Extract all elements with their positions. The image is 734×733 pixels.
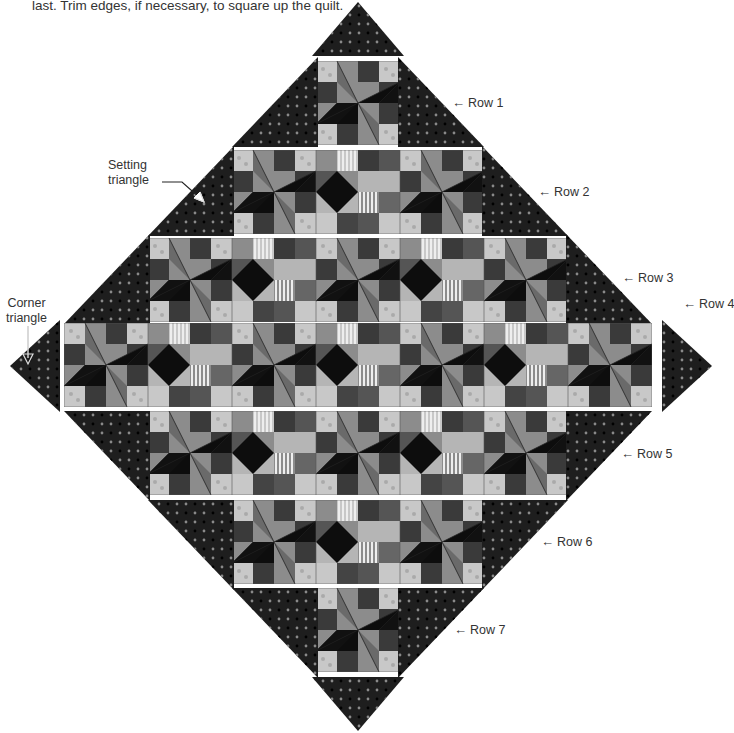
corner-triangle-bottom-shape [312,677,404,731]
diamond-block [484,323,568,407]
corner-triangle-bottom [312,677,404,731]
arrow-left-icon: ← [683,296,696,311]
corner-triangle-right [662,320,712,412]
row-label-2: ←Row 2 [538,184,589,199]
row-label-text: Row 5 [637,447,672,461]
setting-triangle-left-row-3 [64,234,150,324]
star-block [64,323,148,407]
row-label-text: Row 1 [468,96,503,110]
arrow-left-icon: ← [621,446,634,461]
corner-triangle-pointer-icon [20,326,36,366]
star-block [148,411,232,495]
diamond-block [316,500,400,584]
diamond-block [400,411,484,495]
star-block [148,238,232,322]
setting-triangle-left-row-5-shape [64,411,150,501]
quilt-row-1 [316,61,400,145]
arrow-left-icon: ← [541,534,554,549]
star-block [316,61,400,145]
row-label-5: ←Row 5 [621,446,672,461]
row-label-6: ←Row 6 [541,534,592,549]
star-block [316,238,400,322]
setting-triangle-left-row-1 [232,57,318,147]
row-label-1: ←Row 1 [452,95,503,110]
diamond-block [316,150,400,234]
star-block [232,150,316,234]
setting-triangle-left-row-7-shape [232,588,318,678]
quilt-row-2 [232,150,484,234]
corner-triangle-top-shape [312,2,404,56]
row-label-text: Row 2 [554,185,589,199]
star-block [484,238,568,322]
star-block [400,500,484,584]
row-label-text: Row 6 [557,535,592,549]
star-block [316,588,400,672]
quilt-row-5 [148,411,568,495]
arrow-left-icon: ← [452,95,465,110]
setting-triangle-left-row-7 [232,588,318,678]
arrow-left-icon: ← [454,622,467,637]
setting-triangle-left-row-6 [148,500,234,590]
corner-triangle-label: Corner triangle [6,296,47,326]
star-block [232,323,316,407]
quilt-row-4 [64,323,652,407]
setting-triangle-pointer-icon [160,170,210,210]
setting-triangle-left-row-3-shape [64,234,150,324]
star-block [568,323,652,407]
row-label-text: Row 4 [699,297,734,311]
diamond-block [148,323,232,407]
row-label-4: ←Row 4 [683,296,734,311]
arrow-left-icon: ← [622,270,635,285]
row-label-3: ←Row 3 [622,270,673,285]
diamond-block [316,323,400,407]
row-label-text: Row 3 [638,271,673,285]
corner-triangle-right-shape [662,320,712,412]
instruction-caption: last. Trim edges, if necessary, to squar… [32,0,343,13]
row-label-text: Row 7 [470,623,505,637]
setting-triangle-label: Setting triangle [108,158,149,188]
quilt-row-3 [148,238,568,322]
star-block [316,411,400,495]
star-block [400,323,484,407]
setting-triangle-left-row-5 [64,411,150,501]
star-block [400,150,484,234]
setting-triangle-left-row-1-shape [232,57,318,147]
diamond-block [232,411,316,495]
quilt-row-7 [316,588,400,672]
setting-triangle-left-row-6-shape [148,500,234,590]
star-block [484,411,568,495]
diamond-block [232,238,316,322]
corner-triangle-top [312,2,404,56]
arrow-left-icon: ← [538,184,551,199]
star-block [232,500,316,584]
row-label-7: ←Row 7 [454,622,505,637]
quilt-row-6 [232,500,484,584]
diamond-block [400,238,484,322]
